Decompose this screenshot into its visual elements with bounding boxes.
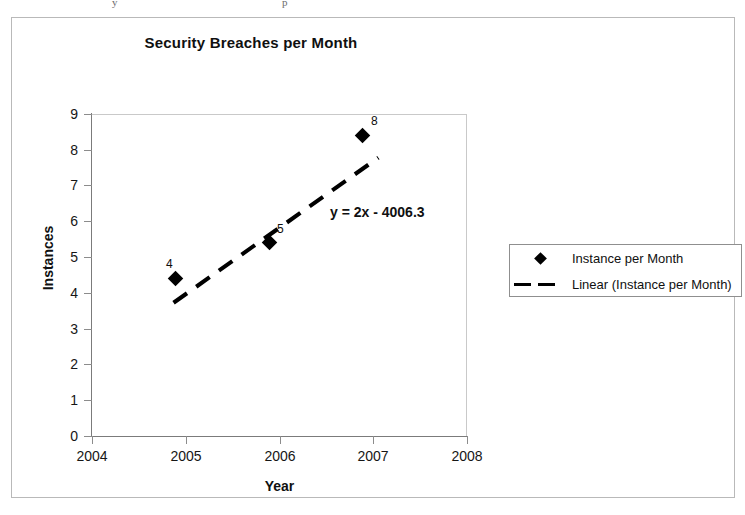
y-tick-label-8: 8: [56, 143, 78, 157]
y-tick-mark: [84, 114, 92, 115]
data-point-label-2007: 8: [371, 115, 378, 127]
y-tick-mark: [84, 364, 92, 365]
dashed-line-icon: [538, 283, 555, 286]
scan-artifact-strip: y p: [0, 0, 745, 12]
y-tick-label-2: 2: [56, 357, 78, 371]
chart-legend[interactable]: Instance per Month Linear (Instance per …: [509, 244, 742, 297]
y-tick-mark: [84, 400, 92, 401]
y-tick-mark: [84, 185, 92, 186]
y-tick-label-7: 7: [56, 178, 78, 192]
y-tick-mark: [84, 329, 92, 330]
y-tick-mark: [84, 150, 92, 151]
x-tick-mark: [373, 436, 374, 444]
scan-artifact-fragment-right: p: [282, 0, 288, 8]
x-tick-mark: [280, 436, 281, 444]
x-tick-mark: [186, 436, 187, 444]
y-tick-mark: [84, 436, 92, 437]
y-tick-label-9: 9: [56, 107, 78, 121]
y-tick-label-0: 0: [56, 429, 78, 443]
y-axis-title: Instances: [40, 198, 56, 318]
legend-label-series: Instance per Month: [572, 251, 683, 266]
x-tick-label-2007: 2007: [343, 449, 403, 463]
legend-key-series: [510, 245, 572, 271]
dashed-line-icon: [514, 283, 531, 286]
y-tick-mark: [84, 221, 92, 222]
data-point-label-2005: 4: [166, 258, 173, 270]
chart-title: Security Breaches per Month: [12, 34, 490, 51]
legend-item-linear-trend[interactable]: Linear (Instance per Month): [510, 271, 741, 297]
x-tick-label-2004: 2004: [62, 449, 122, 463]
x-tick-label-2005: 2005: [156, 449, 216, 463]
diamond-marker-icon: [534, 252, 547, 265]
plot-area: [92, 114, 467, 436]
y-tick-mark: [84, 257, 92, 258]
x-tick-mark: [467, 436, 468, 444]
legend-item-instance-per-month[interactable]: Instance per Month: [510, 245, 741, 271]
x-tick-label-2008: 2008: [437, 449, 497, 463]
legend-label-trend: Linear (Instance per Month): [572, 277, 732, 292]
y-tick-label-6: 6: [56, 214, 78, 228]
chart-figure-frame: Security Breaches per Month 0 1 2 3 4 5 …: [11, 17, 735, 498]
data-point-label-2006: 5: [277, 223, 284, 235]
y-tick-label-5: 5: [56, 250, 78, 264]
y-tick-label-3: 3: [56, 322, 78, 336]
legend-key-trend: [510, 271, 572, 297]
x-tick-mark: [92, 436, 93, 444]
trendline-equation-label: y = 2x - 4006.3: [330, 204, 425, 220]
y-tick-mark: [84, 293, 92, 294]
y-axis-line: [91, 113, 92, 437]
x-tick-label-2006: 2006: [250, 449, 310, 463]
y-tick-label-1: 1: [56, 393, 78, 407]
y-tick-label-4: 4: [56, 286, 78, 300]
x-axis-title: Year: [92, 478, 467, 494]
scan-artifact-fragment-left: y: [112, 0, 118, 8]
